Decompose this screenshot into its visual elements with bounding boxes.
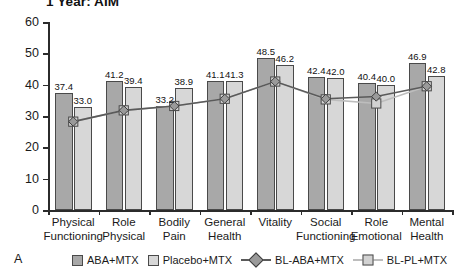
category-label: General Health [204,216,245,243]
y-tick-label: 50 [25,47,39,60]
chart-title: 1 Year: AIM [46,0,306,9]
bar-value-label: 41.3 [225,70,244,80]
panel-letter: A [14,252,22,266]
legend-item-bl-aba-mtx: BL-ABA+MTX [241,254,344,266]
bar-value-label: 41.1 [206,70,225,80]
legend-label: BL-PL+MTX [387,254,447,266]
bar-value-label: 40.4 [358,72,377,82]
category-label: Mental Health [409,216,444,243]
bar-value-label: 41.2 [105,70,124,80]
bar-value-label: 37.4 [55,82,74,92]
y-tick-label: 20 [25,141,39,154]
legend-label: Placebo+MTX [163,254,232,266]
y-tick-label: 40 [25,78,39,91]
legend-label: ABA+MTX [87,254,139,266]
bar-value-label: 42.4 [307,66,326,76]
square-marker-icon [362,255,373,266]
legend-swatch-light-icon [148,255,159,266]
y-tick-label: 10 [25,172,39,185]
bar-value-label: 39.4 [124,76,143,86]
category-label: Vitality [258,216,292,230]
category-label: Bodily Pain [159,216,190,243]
legend-swatch-dark-icon [72,255,83,266]
y-tick-label: 0 [32,204,39,217]
legend-line-square-icon [353,254,383,266]
line-series-layer [48,22,452,210]
y-tick-label: 60 [25,16,39,29]
category-label: Social Functioning [296,216,355,243]
diamond-marker-icon [248,252,264,268]
y-tick-label: 30 [25,110,39,123]
x-tick-mark [452,210,454,215]
legend-item-aba-mtx: ABA+MTX [72,254,139,266]
legend-label: BL-ABA+MTX [275,254,344,266]
bar-value-label: 40.0 [377,74,396,84]
chart-legend: ABA+MTX Placebo+MTX BL-ABA+MTX BL-PL+MTX [72,250,458,270]
legend-item-bl-pl-mtx: BL-PL+MTX [353,254,447,266]
legend-line-diamond-icon [241,254,271,266]
legend-item-placebo-mtx: Placebo+MTX [148,254,232,266]
category-label: Role Physical [102,216,145,243]
bar-value-label: 46.2 [276,54,295,64]
bar-value-label: 38.9 [175,77,194,87]
bar-value-label: 46.9 [408,52,427,62]
category-axis-labels: Physical FunctioningRole PhysicalBodily … [48,214,452,248]
bar-value-label: 42.8 [427,65,446,75]
bar-value-label: 48.5 [257,47,276,57]
bar-value-label: 42.0 [326,67,345,77]
category-label: Role Emotional [351,216,402,243]
plot-area: 0102030405060 37.441.233.241.148.542.440… [48,22,452,210]
chart-figure: 1 Year: AIM 0102030405060 37.441.233.241… [0,0,464,273]
category-label: Physical Functioning [44,216,103,243]
bar-value-label: 33.2 [156,95,175,105]
bar-value-label: 33.0 [74,96,93,106]
